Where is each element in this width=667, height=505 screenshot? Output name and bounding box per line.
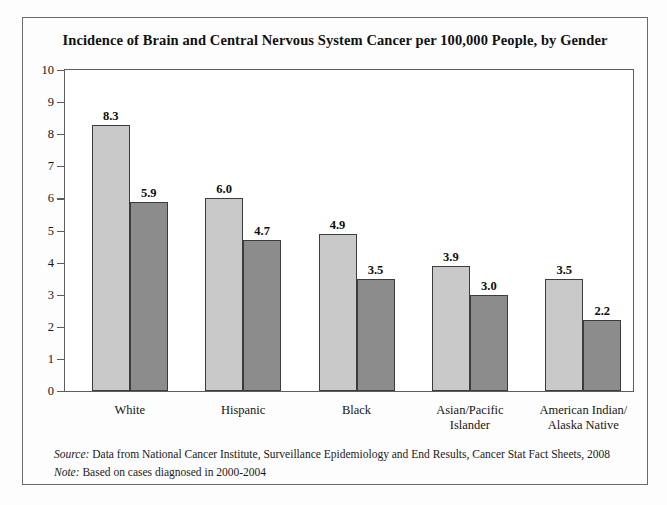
y-axis-label: 6: [48, 191, 54, 206]
bar-men: 3.9: [432, 266, 470, 391]
x-axis-category-label: White: [114, 403, 145, 418]
y-tick-mark: [57, 263, 65, 264]
bar-value-label: 3.0: [481, 279, 497, 294]
y-tick-mark: [57, 70, 65, 71]
bar-value-label: 8.3: [103, 109, 119, 124]
bar-women: 4.7: [243, 240, 281, 391]
x-axis-category-label: Hispanic: [221, 403, 265, 418]
footnote-lead: Source:: [54, 448, 89, 460]
y-tick-mark: [57, 166, 65, 167]
bar-value-label: 3.9: [443, 250, 459, 265]
bar-men: 4.9: [319, 234, 357, 391]
bar-value-label: 4.9: [330, 218, 346, 233]
footnote-line: Source: Data from National Cancer Instit…: [54, 445, 610, 463]
x-axis-category-label: American Indian/Alaska Native: [539, 403, 627, 433]
y-tick-mark: [57, 102, 65, 103]
y-axis-label: 5: [48, 223, 54, 238]
y-axis-label: 10: [42, 63, 55, 78]
figure-frame: Incidence of Brain and Central Nervous S…: [22, 17, 648, 485]
footnote-line: Note: Based on cases diagnosed in 2000-2…: [54, 463, 610, 481]
bar-men: 6.0: [205, 198, 243, 391]
bar-value-label: 6.0: [216, 182, 232, 197]
bar-value-label: 3.5: [368, 263, 384, 278]
bar-men: 8.3: [92, 125, 130, 391]
footnote-text: Based on cases diagnosed in 2000-2004: [80, 466, 267, 478]
y-tick-mark: [57, 295, 65, 296]
footnote-lead: Note:: [54, 466, 80, 478]
bar-value-label: 5.9: [141, 186, 157, 201]
bar-women: 3.5: [357, 279, 395, 391]
y-tick-mark: [57, 198, 65, 199]
y-tick-mark: [57, 134, 65, 135]
y-axis-label: 3: [48, 287, 54, 302]
chart-page: Incidence of Brain and Central Nervous S…: [0, 0, 667, 505]
y-axis-label: 1: [48, 351, 54, 366]
y-tick-mark: [57, 391, 65, 392]
y-axis-label: 0: [48, 384, 54, 399]
bar-women: 2.2: [583, 320, 621, 391]
bar-value-label: 3.5: [556, 263, 572, 278]
plot-area: 109876543210 8.35.96.04.74.93.53.93.03.5…: [64, 69, 634, 392]
y-tick-mark: [57, 231, 65, 232]
page-title: Incidence of Brain and Central Nervous S…: [23, 32, 647, 49]
footnotes: Source: Data from National Cancer Instit…: [54, 445, 610, 481]
y-axis-label: 7: [48, 159, 54, 174]
y-axis-label: 4: [48, 255, 54, 270]
x-axis-category-label: Black: [342, 403, 371, 418]
y-tick-mark: [57, 359, 65, 360]
y-axis-label: 2: [48, 319, 54, 334]
bar-women: 3.0: [470, 295, 508, 391]
footnote-text: Data from National Cancer Institute, Sur…: [89, 448, 610, 460]
bar-women: 5.9: [130, 202, 168, 391]
y-tick-mark: [57, 327, 65, 328]
bar-value-label: 4.7: [254, 224, 270, 239]
y-axis-label: 9: [48, 95, 54, 110]
x-axis-category-label: Asian/PacificIslander: [436, 403, 503, 433]
bar-men: 3.5: [545, 279, 583, 391]
y-axis-label: 8: [48, 127, 54, 142]
bar-value-label: 2.2: [594, 304, 610, 319]
